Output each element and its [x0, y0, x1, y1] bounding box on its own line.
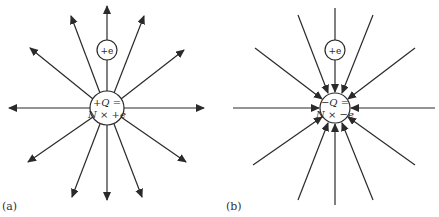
source-charge-label-line2: N × +e	[87, 109, 126, 120]
field-line-arrow-icon	[28, 117, 93, 162]
field-line-arrow-icon	[298, 15, 328, 93]
field-line-arrow-icon	[348, 117, 415, 165]
source-charge-label-line2: N × −e	[315, 109, 354, 120]
field-line-arrow-icon	[114, 16, 144, 93]
test-charge-label: +e	[101, 46, 114, 56]
source-charge-a: +Q = N × +e	[87, 91, 126, 125]
field-line-arrow-icon	[255, 48, 322, 99]
field-line-arrow-icon	[71, 16, 100, 93]
field-line-arrow-icon	[30, 48, 93, 99]
field-line-arrow-icon	[121, 50, 184, 99]
field-line-arrow-icon	[348, 48, 415, 99]
panel-b: +e −Q = N × −e (b)	[226, 8, 435, 213]
panel-a: +e +Q = N × +e (a)	[2, 6, 204, 213]
test-charge-a: +e	[97, 40, 117, 60]
source-charge-b: −Q = N × −e	[315, 93, 354, 123]
field-line-arrow-icon	[342, 15, 373, 93]
test-charge-b: +e	[325, 40, 345, 60]
test-charge-label: +e	[329, 46, 342, 56]
panel-label-b: (b)	[226, 200, 242, 213]
field-line-arrow-icon	[114, 124, 142, 197]
field-line-arrow-icon	[253, 117, 322, 165]
field-line-arrow-icon	[121, 117, 186, 162]
panel-label-a: (a)	[2, 200, 17, 213]
field-line-arrow-icon	[72, 124, 100, 197]
electric-field-diagram: +e +Q = N × +e (a) +e	[0, 0, 439, 217]
field-line-arrow-icon	[298, 123, 328, 200]
source-charge-label-line1: +Q =	[93, 97, 121, 108]
source-charge-label-line1: −Q =	[321, 97, 349, 108]
field-line-arrow-icon	[342, 123, 373, 200]
